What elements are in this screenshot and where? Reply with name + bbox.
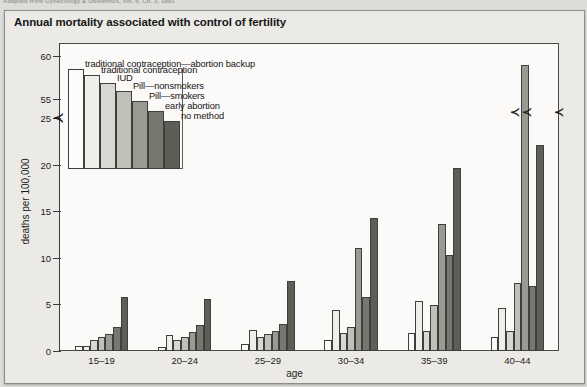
bar-35-39-s5 <box>446 255 454 351</box>
legend-label-2: IUD <box>117 73 133 83</box>
y-tick-label-10: 10 <box>40 252 51 263</box>
axis-break-zigzag-0: ≺ <box>510 106 518 118</box>
bar-25-29-s4 <box>272 331 280 351</box>
axis-break-marker-y: ≺ <box>53 111 62 124</box>
bar-20-24-s3 <box>181 337 189 351</box>
bar-30-34-s2 <box>340 333 348 351</box>
bar-30-34-s6 <box>370 218 378 351</box>
x-group-label-3: 30–34 <box>338 355 364 366</box>
y-tick-label-20: 20 <box>40 159 51 170</box>
legend-label-1: traditional contraception <box>101 65 197 75</box>
y-axis-title: deaths per 100,000 <box>20 122 31 282</box>
bar-25-29-s2 <box>257 337 265 351</box>
chart-legend: traditional contraception—abortion backu… <box>68 61 300 169</box>
bar-35-39-s6 <box>453 168 461 351</box>
x-group-label-2: 25–29 <box>255 355 281 366</box>
bar-40-44-s5 <box>529 286 537 351</box>
bar-15-19-s3 <box>98 337 106 351</box>
legend-label-3: Pill—nonsmokers <box>133 81 204 91</box>
x-group-label-5: 40–44 <box>504 355 530 366</box>
source-credit-text: Adapted from Gynecology & Obstetrics, Vo… <box>3 0 587 4</box>
bar-15-19-s6 <box>121 297 129 351</box>
axis-break-zigzag-2: ≺ <box>554 106 562 118</box>
y-tick-label-15: 15 <box>40 206 51 217</box>
bar-40-44-s1 <box>498 308 506 351</box>
screenshot-page: Adapted from Gynecology & Obstetrics, Vo… <box>0 0 587 387</box>
legend-swatch-6 <box>164 121 180 169</box>
bar-15-19-s1 <box>83 346 91 351</box>
bar-25-29-s3 <box>264 334 272 351</box>
bar-25-29-s6 <box>287 281 295 351</box>
bar-15-19-s4 <box>105 334 113 351</box>
bar-35-39-s1 <box>415 301 423 351</box>
bar-25-29-s0 <box>241 344 249 351</box>
bar-25-29-s1 <box>249 330 257 351</box>
bar-20-24-s6 <box>204 299 212 351</box>
y-tick-label-55: 55 <box>40 94 51 105</box>
legend-swatch-5 <box>148 111 164 169</box>
legend-swatch-4 <box>132 101 148 169</box>
bar-20-24-s4 <box>189 332 197 351</box>
bar-30-34-s4 <box>355 248 363 351</box>
legend-swatch-0 <box>68 69 84 169</box>
bar-40-44-s6 <box>536 145 544 351</box>
y-tick-label-0: 0 <box>46 346 51 357</box>
bar-20-24-s1 <box>166 335 174 351</box>
figure-panel: Annual mortality associated with control… <box>4 10 585 384</box>
legend-label-4: Pill—smokers <box>149 91 205 101</box>
bar-30-34-s3 <box>347 327 355 351</box>
bar-20-24-s5 <box>196 325 204 351</box>
bar-25-29-s5 <box>279 324 287 351</box>
bar-35-39-s4 <box>438 224 446 351</box>
y-tick-label-5: 5 <box>46 299 51 310</box>
legend-swatch-2 <box>100 83 116 169</box>
plot-area: 05101520255560 deaths per 100,000 15–192… <box>5 11 584 383</box>
legend-swatch-3 <box>116 91 132 169</box>
x-group-label-1: 20–24 <box>172 355 198 366</box>
bar-40-44-s0 <box>491 337 499 351</box>
legend-label-5: early abortion <box>165 101 220 111</box>
bar-35-39-s0 <box>408 333 416 351</box>
bar-15-19-s2 <box>90 340 98 351</box>
legend-label-6: no method <box>181 111 224 121</box>
bar-30-34-s0 <box>324 340 332 351</box>
bar-20-24-s2 <box>173 340 181 351</box>
y-tick-label-25: 25 <box>40 113 51 124</box>
bar-35-39-s3 <box>430 305 438 351</box>
bar-40-44-s2 <box>506 331 514 351</box>
bar-30-34-s1 <box>332 310 340 351</box>
legend-swatch-1 <box>84 75 100 169</box>
y-tick-0 <box>53 351 61 352</box>
bar-35-39-s2 <box>423 331 431 351</box>
bar-40-44-s3 <box>514 283 522 351</box>
source-credit-strip: Adapted from Gynecology & Obstetrics, Vo… <box>0 0 587 10</box>
x-axis-title: age <box>5 368 584 379</box>
x-group-label-0: 15–19 <box>88 355 114 366</box>
axis-break-zigzag-1: ≺ <box>522 106 530 118</box>
y-tick-label-60: 60 <box>40 51 51 62</box>
bar-15-19-s0 <box>75 346 83 351</box>
bar-30-34-s5 <box>362 297 370 351</box>
bar-20-24-s0 <box>158 347 166 351</box>
x-group-label-4: 35–39 <box>421 355 447 366</box>
bar-15-19-s5 <box>113 327 121 351</box>
